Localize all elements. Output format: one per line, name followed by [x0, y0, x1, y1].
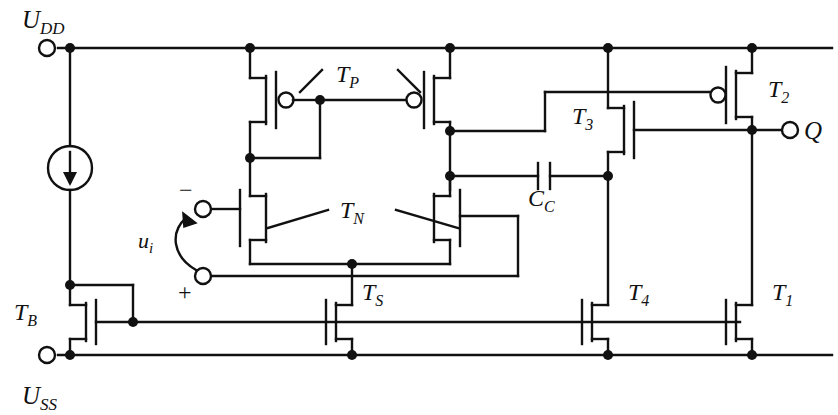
- dot-udd-t3: [603, 43, 613, 53]
- udd-terminal-circle[interactable]: [39, 40, 55, 56]
- ui-arrow-head: [183, 213, 196, 227]
- dot-udd-t2: [747, 43, 757, 53]
- label-input-plus: +: [178, 279, 192, 305]
- output-terminal-circle[interactable]: [782, 122, 798, 138]
- dot-tp-gate-node: [315, 95, 325, 105]
- dot-uss-tb: [65, 350, 75, 360]
- schematic-labels: UDD USS TP TN TS TB T1 T2 T3: [14, 6, 822, 414]
- current-source-arrow-head: [63, 172, 77, 186]
- label-uss: USS: [22, 382, 58, 414]
- label-tp: TP: [336, 61, 359, 91]
- dot-uss-ts: [347, 350, 357, 360]
- tp-left-gate-bubble: [279, 93, 294, 108]
- terminal-circles: [39, 40, 798, 363]
- tp-right-gate-bubble: [407, 93, 422, 108]
- tp-leader-right: [398, 70, 420, 92]
- schematic-svg: UDD USS TP TN TS TB T1 T2 T3: [0, 0, 838, 415]
- junction-dots: [65, 43, 757, 360]
- dot-tp-right-drain: [445, 126, 455, 136]
- label-input-minus: −: [179, 177, 193, 203]
- dot-bias-line: [128, 317, 138, 327]
- label-udd: UDD: [22, 6, 65, 38]
- label-ui: ui: [138, 228, 153, 256]
- dot-udd-left: [65, 43, 75, 53]
- label-tn: TN: [340, 197, 365, 227]
- dot-udd-tp-right: [445, 43, 455, 53]
- dot-udd-tp-left: [245, 43, 255, 53]
- dot-cc-right: [603, 171, 613, 181]
- label-tb: TB: [14, 299, 37, 329]
- tn-leader-left: [268, 210, 328, 228]
- input-plus-terminal-circle[interactable]: [195, 268, 211, 284]
- circuit-diagram-canvas: UDD USS TP TN TS TB T1 T2 T3: [0, 0, 838, 415]
- uss-terminal-circle[interactable]: [39, 347, 55, 363]
- label-t2: T2: [768, 76, 789, 106]
- label-q: Q: [804, 117, 822, 144]
- dot-bias-tb-top: [65, 280, 75, 290]
- label-t3: T3: [572, 103, 593, 133]
- input-minus-terminal-circle[interactable]: [195, 201, 211, 217]
- dot-uss-t4: [603, 350, 613, 360]
- dot-tail: [347, 259, 357, 269]
- dot-output: [747, 125, 757, 135]
- dot-uss-t1: [747, 350, 757, 360]
- t2-gate-bubble: [711, 88, 726, 103]
- dot-cc-left: [445, 171, 455, 181]
- label-t4: T4: [628, 279, 649, 309]
- label-ts: TS: [362, 279, 383, 309]
- label-t1: T1: [772, 279, 793, 309]
- dot-tp-left-drain: [245, 153, 255, 163]
- tp-leader-left: [300, 70, 322, 92]
- tn-leader-right: [396, 210, 458, 228]
